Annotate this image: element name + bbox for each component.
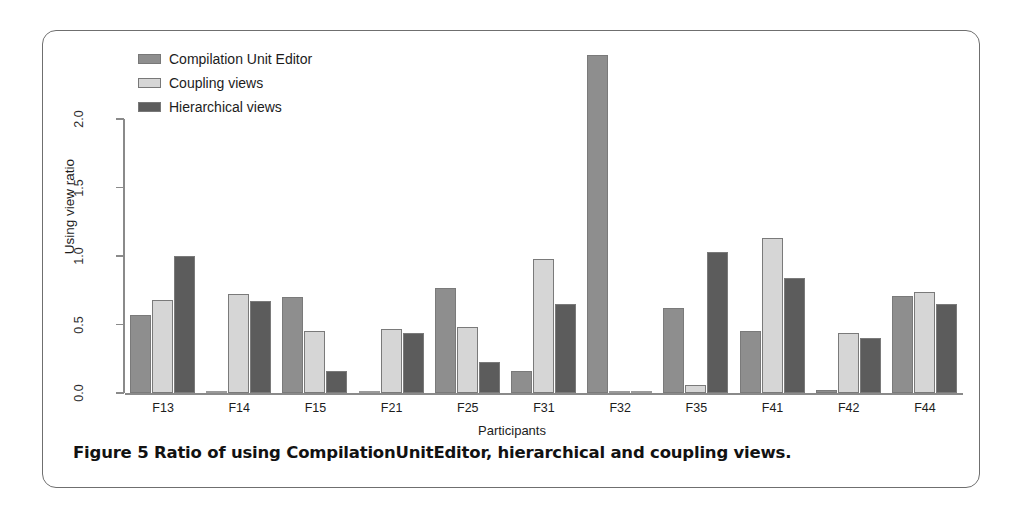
- bar: [838, 333, 859, 393]
- bar-group-f13: [130, 71, 196, 393]
- bar: [860, 338, 881, 393]
- bar-group-f14: [206, 71, 272, 393]
- y-axis-tick-label: 0.0: [65, 386, 93, 400]
- bar: [326, 371, 347, 393]
- y-axis-tick: [116, 187, 124, 189]
- bar: [631, 391, 652, 393]
- bar: [479, 362, 500, 394]
- bar: [533, 259, 554, 393]
- bar: [381, 329, 402, 393]
- legend-entry-label: Compilation Unit Editor: [169, 51, 312, 67]
- y-axis-tick: [116, 118, 124, 120]
- bar-group-f42: [816, 71, 882, 393]
- x-axis-tick-label: F32: [585, 401, 655, 415]
- x-axis-tick-label: F14: [204, 401, 274, 415]
- bar: [816, 390, 837, 393]
- bar-group-f25: [435, 71, 501, 393]
- bar: [707, 252, 728, 393]
- y-axis-tick: [116, 392, 124, 394]
- bar-group-f31: [511, 71, 577, 393]
- bar: [740, 331, 761, 393]
- bar: [435, 288, 456, 393]
- bar-group-f21: [359, 71, 425, 393]
- x-axis-tick-label: F44: [890, 401, 960, 415]
- y-axis-tick: [116, 324, 124, 326]
- bar: [511, 371, 532, 393]
- y-axis-tick-label: 2.0: [65, 112, 93, 126]
- legend-swatch-icon: [138, 54, 161, 64]
- figure-frame: Compilation Unit Editor Coupling views H…: [42, 30, 980, 488]
- x-axis-tick-label: F25: [433, 401, 503, 415]
- bar: [282, 297, 303, 393]
- bar: [206, 391, 227, 393]
- x-axis-tick-label: F31: [509, 401, 579, 415]
- bar-group-f44: [892, 71, 958, 393]
- bar: [250, 301, 271, 393]
- bar: [663, 308, 684, 393]
- x-axis-tick-label: F21: [357, 401, 427, 415]
- bar: [587, 55, 608, 393]
- chart-plot-area: Compilation Unit Editor Coupling views H…: [43, 31, 981, 431]
- x-axis-tick-label: F13: [128, 401, 198, 415]
- bar: [130, 315, 151, 393]
- y-axis-title: Using view ratio: [62, 147, 77, 267]
- x-axis-title: Participants: [43, 423, 981, 438]
- bar: [457, 327, 478, 393]
- x-axis-tick-label: F42: [814, 401, 884, 415]
- bar: [685, 385, 706, 393]
- bar: [359, 391, 380, 393]
- bar: [555, 304, 576, 393]
- x-axis-line: [125, 393, 963, 395]
- bar-series-layer: [125, 71, 963, 393]
- x-axis-tick-label: F41: [738, 401, 808, 415]
- y-axis-tick-label: 0.5: [65, 318, 93, 332]
- y-axis-tick: [116, 255, 124, 257]
- figure-caption: Figure 5 Ratio of using CompilationUnitE…: [73, 443, 953, 462]
- x-axis-tick-label: F15: [280, 401, 350, 415]
- bar-group-f15: [282, 71, 348, 393]
- bar: [609, 391, 630, 393]
- bar: [892, 296, 913, 393]
- bar: [762, 238, 783, 393]
- bar-group-f41: [740, 71, 806, 393]
- x-axis-tick-label: F35: [661, 401, 731, 415]
- bar: [784, 278, 805, 393]
- bar: [403, 333, 424, 393]
- legend-entry-compilation-unit-editor: Compilation Unit Editor: [138, 49, 312, 69]
- bar: [152, 300, 173, 393]
- bar-group-f32: [587, 71, 653, 393]
- bar-group-f35: [663, 71, 729, 393]
- bar: [914, 292, 935, 393]
- bar: [174, 256, 195, 393]
- bar: [936, 304, 957, 393]
- bar: [228, 294, 249, 393]
- bar: [304, 331, 325, 393]
